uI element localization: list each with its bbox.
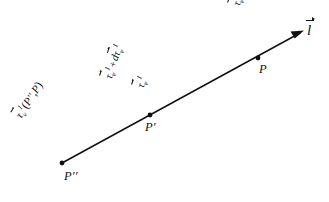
point-marker-P-prime [148, 113, 153, 118]
point-marker-P-double-prime [60, 161, 65, 166]
label-point-P: P [259, 63, 267, 76]
label-line-l: l [307, 22, 311, 38]
line-diagram-svg [0, 0, 329, 202]
l-glyph: l [307, 23, 311, 38]
label-point-P-double-prime: P′′ [64, 170, 78, 183]
figure-canvas: τv1=0 τv1+dτv1 τv1 τv1(P′′,P) l P P′ P′′ [0, 0, 329, 202]
point-marker-P [256, 56, 261, 61]
line-l [62, 33, 300, 163]
label-point-P-prime: P′ [145, 121, 156, 134]
